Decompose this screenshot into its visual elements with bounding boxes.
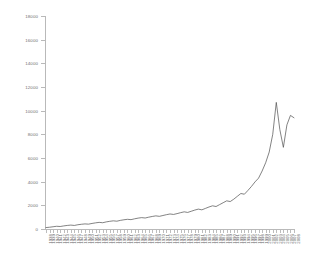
x-axis-tick [241,230,242,233]
y-axis-tick [41,111,45,112]
x-axis-tick [188,230,189,233]
y-axis-tick-label: 4000 [0,179,38,184]
x-axis-tick [81,230,82,233]
x-axis-tick [117,230,118,233]
x-axis-tick [74,230,75,233]
x-axis-tick [78,230,79,233]
x-axis-tick [251,230,252,233]
y-axis-tick-label: 16000 [0,37,38,42]
y-axis-tick-label: 6000 [0,156,38,161]
x-axis-tick [223,230,224,233]
x-axis-tick [138,230,139,233]
x-axis-tick [209,230,210,233]
x-axis-tick [89,230,90,233]
x-axis-tick [266,230,267,233]
x-axis-tick [205,230,206,233]
x-axis-tick [230,230,231,233]
x-axis-tick [142,230,143,233]
x-axis-tick [294,230,295,233]
x-axis-tick [149,230,150,233]
line-chart: 0200040006000800010000120001400016000180… [0,0,310,268]
x-axis-tick [96,230,97,233]
y-axis-tick [41,63,45,64]
y-axis-tick-label: 10000 [0,108,38,113]
x-axis-tick [85,230,86,233]
y-axis-tick-label: 2000 [0,203,38,208]
x-axis-tick [135,230,136,233]
x-axis-tick [60,230,61,233]
x-axis-tick [53,230,54,233]
x-axis-tick-label: 2008 [296,234,301,244]
x-axis-tick [170,230,171,233]
x-axis-tick [67,230,68,233]
x-axis-tick [152,230,153,233]
y-axis-tick-label: 18000 [0,14,38,19]
x-axis-tick [163,230,164,233]
x-axis-tick [127,230,128,233]
x-axis-tick [64,230,65,233]
x-axis-tick [50,230,51,233]
x-axis-tick [198,230,199,233]
x-axis-tick [202,230,203,233]
x-axis-tick [166,230,167,233]
x-axis-tick [103,230,104,233]
x-axis-tick [156,230,157,233]
y-axis-tick [41,158,45,159]
x-axis-tick [145,230,146,233]
x-axis-tick [262,230,263,233]
x-axis-tick [227,230,228,233]
x-axis-tick [131,230,132,233]
x-axis-tick [273,230,274,233]
y-axis-tick [41,16,45,17]
x-axis-tick [181,230,182,233]
x-axis-tick [174,230,175,233]
y-axis-tick [41,205,45,206]
y-axis-tick [41,134,45,135]
y-axis-tick [41,182,45,183]
x-axis-tick [276,230,277,233]
y-axis-tick-label: 8000 [0,132,38,137]
x-axis-tick [283,230,284,233]
y-axis-tick-label: 12000 [0,85,38,90]
x-axis-tick [248,230,249,233]
x-axis-tick [177,230,178,233]
y-axis-tick [41,40,45,41]
x-axis-tick [280,230,281,233]
x-axis-tick [57,230,58,233]
data-series-line [0,0,310,268]
x-axis-tick [124,230,125,233]
x-axis-tick [259,230,260,233]
x-axis-tick [244,230,245,233]
x-axis-tick [269,230,270,233]
y-axis-tick [41,229,45,230]
x-axis-tick [255,230,256,233]
x-axis-tick [191,230,192,233]
x-axis-tick [237,230,238,233]
x-axis-tick [99,230,100,233]
x-axis-tick [213,230,214,233]
x-axis-tick [71,230,72,233]
y-axis-tick-label: 14000 [0,61,38,66]
x-axis-tick [234,230,235,233]
y-axis-tick [41,87,45,88]
x-axis-tick [92,230,93,233]
x-axis-tick [113,230,114,233]
x-axis-tick [46,230,47,233]
x-axis-tick [106,230,107,233]
y-axis-line [45,16,46,229]
x-axis-tick [290,230,291,233]
y-axis-tick-label: 0 [0,227,38,232]
x-axis-tick [120,230,121,233]
x-axis-tick [159,230,160,233]
x-axis-tick [110,230,111,233]
x-axis-tick [220,230,221,233]
x-axis-tick [195,230,196,233]
x-axis-tick [287,230,288,233]
x-axis-tick [184,230,185,233]
x-axis-tick [216,230,217,233]
